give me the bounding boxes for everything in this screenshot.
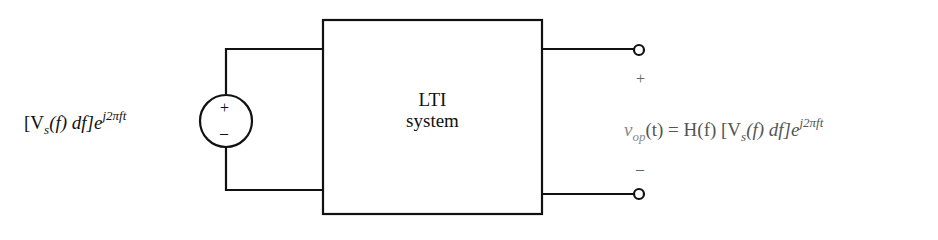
source-minus: – [220,124,228,142]
output-expression: vop(t) = H(f) [Vs(f) df]ej2πft [624,115,823,145]
input-expression: [Vs(f) df]ej2πft [24,108,126,138]
output-terminal-bottom [634,189,644,199]
output-terminal-top [634,45,644,55]
source-plus: + [220,99,229,117]
block-label-line2: system [323,110,542,131]
block-label: LTI system [323,89,542,131]
output-plus: + [636,70,645,88]
output-minus: – [636,160,644,178]
block-label-line1: LTI [323,89,542,110]
